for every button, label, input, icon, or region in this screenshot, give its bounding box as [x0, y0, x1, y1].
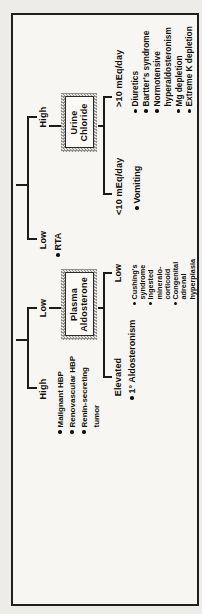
bullet-icon — [135, 207, 139, 211]
rta-list: RTA — [52, 233, 64, 257]
label-low-renin: Low — [38, 281, 48, 335]
list-item: Normotensive — [152, 26, 163, 113]
lt10-list: Vomiting — [131, 166, 143, 210]
label-gt10-meq: >10 mEq/day — [114, 50, 124, 107]
left-bracket-root-stem — [16, 339, 29, 341]
list-item: Diuretics — [130, 26, 141, 113]
list-item: tumor — [90, 356, 102, 434]
bullet-icon — [58, 431, 62, 435]
node-box-urine-chloride: Urine Chloride — [61, 93, 97, 152]
node-box-text: Urine Chloride — [65, 97, 94, 149]
low-aldosterone-list: Cushing's syndrome Ingested mineralo- co… — [130, 259, 196, 305]
right-bracket-high-elbow — [27, 116, 37, 118]
plasma-subbracket-line — [103, 272, 105, 378]
bullet-icon — [70, 431, 74, 435]
right-bracket-low-elbow — [27, 238, 37, 240]
urine-subbracket-line — [103, 96, 105, 195]
bullet-icon — [188, 110, 192, 114]
list-item-text: hyperplasia — [188, 259, 197, 300]
bullet-icon — [174, 302, 177, 305]
bullet-icon — [144, 110, 148, 114]
bullet-icon — [149, 302, 152, 305]
left-bracket-low-elbow — [27, 307, 37, 309]
list-item-text: RTA — [53, 233, 63, 251]
node-box-text: Plasma Aldosterone — [65, 273, 94, 337]
label-elevated: Elevated — [113, 349, 123, 405]
list-item-text: Extreme K depletion — [184, 26, 194, 106]
right-bracket-line — [27, 116, 29, 240]
bullet-icon — [177, 110, 181, 114]
list-item-text: hyperaldosteronism — [163, 27, 173, 106]
gt10-list: Diuretics Bartter's syndrome Normotensiv… — [130, 26, 195, 113]
list-item: Mg depletion — [173, 26, 184, 113]
box-line2: Chloride — [79, 100, 90, 146]
box-line2: Aldosterone — [79, 276, 90, 334]
list-item-text: Renin-secreting — [80, 367, 89, 427]
urine-sub-lt10-elbow — [103, 193, 112, 195]
list-item: hyperplasia — [188, 259, 196, 305]
list-item: Renin-secreting — [78, 356, 90, 434]
list-item-text: tumor — [92, 405, 101, 428]
bullet-icon — [133, 302, 136, 305]
bullet-icon — [82, 431, 86, 435]
box-line1: Plasma — [69, 276, 80, 334]
list-item: Extreme K depletion — [184, 26, 195, 113]
list-item: 1° Aldosteronism — [126, 320, 138, 400]
bullet-icon — [134, 110, 138, 114]
list-item-text: Normotensive — [152, 51, 162, 106]
label-lt10-meq: <10 mEq/day — [114, 158, 124, 215]
label-low-chloride: Low — [38, 213, 48, 267]
list-item: Bartter's syndrome — [141, 26, 152, 113]
list-item: RTA — [52, 233, 64, 257]
left-bracket-line — [27, 307, 29, 389]
label-low-aldosterone: Low — [113, 248, 123, 298]
scanned-flowchart-page: High Malignant HBP Renovascular HBP Reni… — [0, 0, 202, 614]
list-item: Renovascular HBP — [66, 356, 78, 434]
high-renin-list: Malignant HBP Renovascular HBP Renin-sec… — [54, 356, 102, 434]
label-high-chloride: High — [38, 90, 48, 144]
list-item-text: Diuretics — [130, 71, 140, 107]
left-bracket-high-elbow — [27, 387, 37, 389]
bullet-icon — [56, 254, 60, 258]
bullet-icon — [130, 397, 134, 401]
list-item-text: Renovascular HBP — [68, 356, 77, 428]
list-item-text: Vomiting — [132, 166, 142, 204]
list-item: Malignant HBP — [54, 356, 66, 434]
right-bracket-root-stem — [16, 184, 29, 186]
box-line1: Urine — [69, 100, 80, 146]
plasma-sub-elevated-elbow — [103, 376, 112, 378]
flowchart-canvas: High Malignant HBP Renovascular HBP Reni… — [0, 0, 202, 614]
list-item-text: 1° Aldosteronism — [127, 320, 137, 394]
bullet-icon — [155, 110, 159, 114]
list-item-text: Mg depletion — [174, 55, 184, 106]
label-high-renin: High — [38, 362, 48, 416]
plasma-sub-low-elbow — [103, 272, 112, 274]
list-item-text: Malignant HBP — [56, 371, 65, 427]
urine-sub-gt10-elbow — [103, 96, 112, 98]
elevated-list: 1° Aldosteronism — [126, 320, 138, 400]
node-box-plasma-aldosterone: Plasma Aldosterone — [61, 269, 97, 340]
list-item: hyperaldosteronism — [162, 26, 173, 113]
list-item: Vomiting — [131, 166, 143, 210]
list-item-text: Bartter's syndrome — [141, 31, 151, 107]
